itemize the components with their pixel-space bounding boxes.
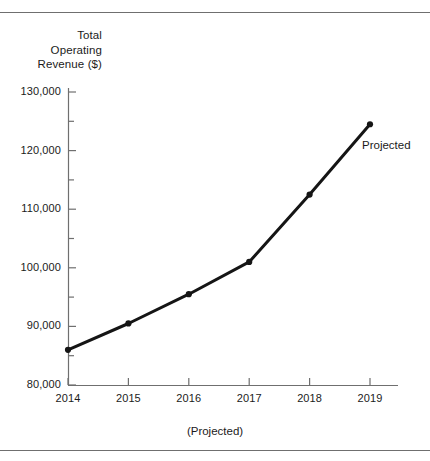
y-axis-tick-label: 80,000: [5, 378, 61, 390]
data-point-marker: [246, 259, 252, 265]
data-point-marker: [65, 347, 71, 353]
revenue-data-markers: [65, 121, 373, 353]
x-axis-tick-label: 2016: [165, 392, 213, 404]
data-point-marker: [186, 291, 192, 297]
x-axis-tick-label: 2014: [44, 392, 92, 404]
y-axis-tick-label: 130,000: [5, 85, 61, 97]
y-axis-ticks: [68, 92, 76, 385]
y-axis-tick-label: 100,000: [5, 261, 61, 273]
x-axis-tick-label: 2018: [286, 392, 334, 404]
x-axis-caption: (Projected): [0, 425, 430, 437]
data-point-marker: [367, 121, 373, 127]
x-axis-tick-label: 2015: [104, 392, 152, 404]
x-axis-tick-label: 2017: [225, 392, 273, 404]
y-axis-tick-label: 110,000: [5, 202, 61, 214]
axis-lines: [68, 88, 398, 386]
x-axis-ticks: [68, 378, 370, 385]
x-axis-tick-label: 2019: [346, 392, 394, 404]
data-point-marker: [125, 320, 131, 326]
y-axis-tick-label: 90,000: [5, 319, 61, 331]
figure-container: Total Operating Revenue ($) 80,00090,000…: [0, 0, 430, 461]
revenue-line-series: [68, 124, 370, 350]
y-axis-tick-label: 120,000: [5, 144, 61, 156]
data-point-marker: [307, 191, 313, 197]
projected-annotation: Projected: [362, 139, 411, 151]
